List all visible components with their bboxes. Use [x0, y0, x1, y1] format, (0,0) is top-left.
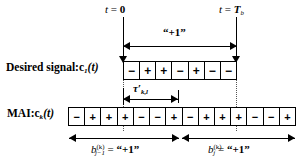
chip-cell: +	[280, 108, 295, 125]
chip-cell: −	[247, 108, 263, 125]
measure-current-bit-bar	[182, 138, 295, 139]
desired-signal-label: Desired signal:c1(t)	[6, 62, 98, 75]
chip-cell: +	[215, 108, 231, 125]
measure-delay-arrow-right	[171, 95, 178, 103]
marker-label-t-zero: t = 0	[105, 4, 125, 15]
chip-cell: +	[101, 108, 117, 125]
figure-canvas: t = 0 t = Tb “+1” Desired signal:c1(t) −…	[0, 0, 305, 163]
delay-end-tick	[178, 90, 179, 103]
measure-current-bit	[182, 134, 295, 143]
pointer-t-tb	[232, 17, 241, 63]
chip-cell: +	[166, 108, 182, 125]
chip-cell: −	[205, 62, 221, 79]
current-bit-label: b(k)j = “+1”	[208, 144, 250, 157]
previous-bit-subscript: j−1	[95, 149, 105, 156]
measure-previous-bit	[69, 134, 179, 143]
pointer-t-zero-stem	[123, 17, 124, 57]
delay-start-tick	[123, 88, 124, 105]
measure-previous-bit-bar	[69, 138, 179, 139]
measure-delay-tau	[123, 95, 178, 104]
chip-cell: +	[189, 62, 205, 79]
measure-delay-bar	[123, 99, 178, 100]
chip-cell: −	[172, 62, 188, 79]
desired-signal-label-text: Desired signal:c	[6, 61, 84, 73]
measure-current-bit-arrow-right	[288, 134, 295, 142]
measure-bit-duration-arrow-left	[123, 42, 130, 50]
previous-bit-eq: =	[105, 143, 117, 155]
chip-cell: +	[118, 108, 134, 125]
chip-cell: −	[221, 62, 236, 79]
mai-signal-label-text: MAI:c	[7, 107, 40, 119]
t-tb-sub: b	[241, 9, 244, 16]
pointer-t-zero	[119, 17, 128, 63]
t-zero-eq: =	[108, 3, 120, 15]
current-bit-value: “+1”	[227, 143, 250, 155]
chip-cell: +	[156, 62, 172, 79]
mai-signal-label-tail: (t)	[43, 107, 54, 119]
t-tb-eq: =	[222, 3, 234, 15]
delay-label: τ′k,l	[133, 83, 148, 96]
measure-previous-bit-arrow-right	[172, 134, 179, 142]
mai-signal-chip-row: −+++−−+−+++−−+	[68, 107, 296, 126]
chip-cell: +	[231, 108, 247, 125]
measure-previous-bit-arrow-left	[69, 134, 76, 142]
desired-signal-chip-row: −++−+−−	[123, 61, 237, 80]
chip-cell: −	[150, 108, 166, 125]
t-tb-val: T	[234, 3, 241, 15]
chip-cell: −	[124, 62, 140, 79]
chip-cell: −	[264, 108, 280, 125]
measure-bit-duration	[123, 42, 237, 51]
previous-bit-value: “+1”	[117, 143, 140, 155]
t-zero-val: 0	[120, 3, 126, 15]
chip-cell: −	[183, 108, 199, 125]
chip-cell: −	[134, 108, 150, 125]
marker-label-t-tb: t = Tb	[219, 4, 244, 17]
delay-subscript: k,l	[141, 88, 148, 95]
current-bit-eq: =	[215, 143, 227, 155]
pointer-t-tb-stem	[236, 17, 237, 57]
measure-bit-duration-bar	[123, 46, 237, 47]
chip-cell: +	[199, 108, 215, 125]
bit-label-top: “+1”	[163, 27, 186, 38]
measure-bit-duration-arrow-right	[230, 42, 237, 50]
previous-bit-label: b(k)j−1 = “+1”	[91, 144, 139, 157]
measure-current-bit-arrow-left	[182, 134, 189, 142]
chip-cell: +	[85, 108, 101, 125]
desired-signal-label-tail: (t)	[88, 61, 99, 73]
mai-signal-label: MAI:ck(t)	[7, 108, 54, 121]
chip-cell: +	[140, 62, 156, 79]
chip-cell: −	[69, 108, 85, 125]
measure-delay-arrow-left	[123, 95, 130, 103]
